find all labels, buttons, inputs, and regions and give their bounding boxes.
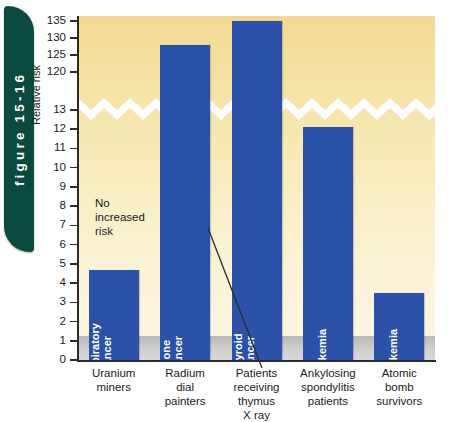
y-tick-label: 12 xyxy=(53,123,66,135)
no-increased-risk-annotation: Noincreasedrisk xyxy=(95,196,145,238)
y-tick-label: 7 xyxy=(60,219,66,231)
y-tick-label: 11 xyxy=(54,142,66,154)
y-tick-mark xyxy=(70,359,78,361)
y-tick-label: 135 xyxy=(47,15,66,27)
x-axis-line xyxy=(77,360,436,362)
y-tick-label: 3 xyxy=(60,296,66,308)
y-tick-label: 0 xyxy=(60,354,66,366)
y-tick-label: 9 xyxy=(60,181,66,193)
y-tick-mark xyxy=(70,282,78,284)
y-tick-label: 10 xyxy=(53,162,66,174)
y-tick-label: 8 xyxy=(60,200,66,212)
bar[interactable]: Respiratorycancer xyxy=(89,270,139,360)
y-tick-mark xyxy=(70,302,78,304)
y-tick-mark xyxy=(70,244,78,246)
y-tick-label: 6 xyxy=(60,239,66,251)
annotation-leader-line xyxy=(206,228,266,368)
y-tick-mark xyxy=(70,128,78,130)
y-tick-label: 130 xyxy=(47,32,66,44)
y-tick-mark xyxy=(70,109,78,111)
bar[interactable]: Leukemia xyxy=(303,127,353,360)
y-tick-label: 5 xyxy=(60,258,66,270)
y-tick-label: 4 xyxy=(60,277,66,289)
y-tick-mark xyxy=(70,37,78,39)
y-axis-title: Relative risk xyxy=(30,40,42,150)
y-tick-mark xyxy=(70,148,78,150)
y-tick-label: 125 xyxy=(47,49,66,61)
category-label: Uraniumminers xyxy=(78,366,149,394)
y-tick-mark xyxy=(70,54,78,56)
y-tick-mark xyxy=(70,340,78,342)
y-tick-mark xyxy=(70,20,78,22)
y-tick-mark xyxy=(70,186,78,188)
figure-number-label: figure 15-16 xyxy=(12,72,27,186)
y-tick-label: 13 xyxy=(53,104,66,116)
category-label: Ankylosingspondylitispatients xyxy=(292,366,363,408)
bar[interactable]: Bonecancer xyxy=(160,45,210,360)
y-tick-mark xyxy=(70,321,78,323)
y-tick-label: 1 xyxy=(60,335,66,347)
y-tick-mark xyxy=(70,167,78,169)
y-tick-mark xyxy=(70,205,78,207)
plot-area: RespiratorycancerBonecancerThyroidcancer… xyxy=(78,16,435,360)
y-tick-label: 2 xyxy=(60,316,66,328)
y-tick-mark xyxy=(70,225,78,227)
category-label: PatientsreceivingthymusX ray xyxy=(221,366,292,422)
y-axis-line xyxy=(77,16,79,362)
y-tick-label: 120 xyxy=(47,66,66,78)
y-tick-mark xyxy=(70,71,78,73)
bar[interactable]: Leukemia xyxy=(374,293,424,360)
category-label: Atomicbombsurvivors xyxy=(364,366,435,408)
y-tick-mark xyxy=(70,263,78,265)
category-label: Radiumdialpainters xyxy=(149,366,220,408)
